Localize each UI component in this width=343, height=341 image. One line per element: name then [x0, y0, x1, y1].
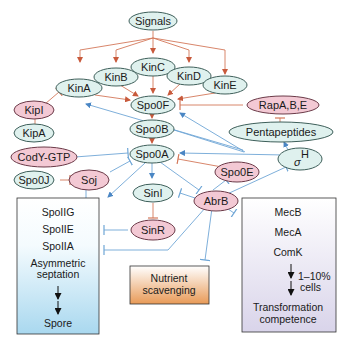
svg-text:KinA: KinA [67, 82, 91, 94]
svg-text:SinI: SinI [144, 187, 163, 199]
node-codY-GTP: CodY-GTP [11, 147, 77, 167]
node-rapABE: RapA,B,E [247, 96, 319, 114]
cells-label: cells [300, 281, 321, 293]
svg-text:KinB: KinB [104, 71, 127, 83]
svg-text:Soj: Soj [81, 174, 97, 186]
competence-label: competence [259, 313, 316, 325]
node-spo0B: Spo0B [130, 120, 174, 138]
svg-text:KinD: KinD [177, 70, 201, 82]
spore-label: Spore [44, 317, 72, 329]
node-spo0F: Spo0F [131, 96, 175, 114]
node-sigmaH: σ H [278, 148, 322, 170]
svg-text:Pentapeptides: Pentapeptides [246, 126, 317, 138]
node-pentapeptides: Pentapeptides [229, 122, 333, 142]
node-abrB: AbrB [194, 191, 238, 211]
node-spo0A: Spo0A [130, 145, 174, 163]
node-kinB: KinB [94, 68, 138, 86]
node-kipI: KipI [14, 101, 54, 119]
spoIIA-label: SpoIIA [42, 240, 74, 252]
spoIIE-label: SpoIIE [42, 223, 74, 235]
node-signals: Signals [129, 12, 177, 30]
svg-text:Spo0F: Spo0F [137, 99, 170, 111]
sigma-superscript: H [301, 148, 309, 160]
svg-text:KinC: KinC [141, 61, 165, 73]
node-soj: Soj [69, 170, 109, 190]
comK-label: ComK [273, 246, 302, 258]
competence-box: MecB MecA ComK 1–10% cells Transformatio… [242, 198, 336, 332]
regulatory-network-diagram: SpoIIG SpoIIE SpoIIA Asymmetric septatio… [0, 0, 343, 341]
svg-text:Spo0E: Spo0E [220, 166, 253, 178]
svg-text:KinE: KinE [213, 79, 236, 91]
svg-text:KipI: KipI [25, 104, 44, 116]
transformation-label: Transformation [253, 301, 323, 313]
node-sinI: SinI [133, 184, 173, 202]
nutrient-scavenging-box: Nutrient scavenging [130, 266, 209, 304]
sporulation-box: SpoIIG SpoIIE SpoIIA Asymmetric septatio… [17, 198, 99, 334]
svg-text:Spo0B: Spo0B [135, 123, 168, 135]
mecA-label: MecA [275, 226, 302, 238]
svg-text:SinR: SinR [141, 224, 165, 236]
svg-text:CodY-GTP: CodY-GTP [18, 151, 71, 163]
node-spo0J: Spo0J [14, 171, 54, 189]
node-kipA: KipA [14, 124, 54, 142]
spoIIG-label: SpoIIG [42, 206, 75, 218]
node-spo0E: Spo0E [215, 162, 259, 182]
sigma-symbol: σ [294, 156, 301, 168]
svg-text:Spo0J: Spo0J [18, 174, 49, 186]
node-kinA: KinA [56, 79, 102, 97]
svg-text:RapA,B,E: RapA,B,E [259, 99, 307, 111]
svg-text:Signals: Signals [135, 15, 172, 27]
scavenging-label: scavenging [142, 284, 195, 296]
svg-text:AbrB: AbrB [204, 195, 228, 207]
mecB-label: MecB [275, 206, 302, 218]
node-sinR: SinR [131, 220, 175, 240]
node-kinE: KinE [203, 76, 247, 94]
septation-label: septation [37, 268, 80, 280]
svg-text:KipA: KipA [22, 127, 46, 139]
svg-text:Spo0A: Spo0A [135, 148, 169, 160]
nutrient-label: Nutrient [151, 272, 188, 284]
